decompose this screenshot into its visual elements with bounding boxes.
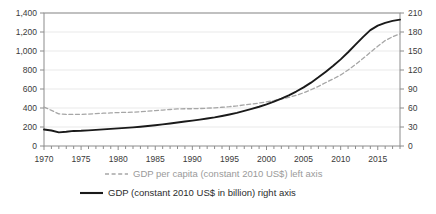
chart-legend: GDP per capita (constant 2010 US$) left … <box>80 168 323 198</box>
x-axis-tick-label: 1975 <box>72 154 91 164</box>
left-axis-tick-label: 0 <box>32 141 37 151</box>
x-axis: 1970197519801985199019952000200520102015 <box>35 146 400 164</box>
x-axis-tick-label: 2005 <box>294 154 313 164</box>
x-axis-tick-label: 2010 <box>331 154 350 164</box>
gdp-chart: 1970197519801985199019952000200520102015… <box>0 0 436 214</box>
left-axis-tick-label: 200 <box>23 122 37 132</box>
left-axis-tick-label: 1,000 <box>16 46 38 56</box>
left-y-axis: 02004006008001,0001,2001,400 <box>16 8 44 151</box>
right-axis-tick-label: 120 <box>408 65 422 75</box>
left-axis-tick-label: 400 <box>23 103 37 113</box>
series-line-gdp <box>44 20 400 133</box>
series-lines <box>44 20 400 133</box>
x-axis-tick-label: 1990 <box>183 154 202 164</box>
x-axis-tick-label: 2000 <box>257 154 276 164</box>
right-axis-tick-label: 210 <box>408 8 422 18</box>
chart-canvas: 1970197519801985199019952000200520102015… <box>0 0 436 214</box>
x-axis-tick-label: 1995 <box>220 154 239 164</box>
x-axis-tick-label: 1980 <box>109 154 128 164</box>
legend-label-gdp: GDP (constant 2010 US$ in billion) right… <box>108 187 296 198</box>
right-y-axis: 0306090120150180210 <box>400 8 422 151</box>
series-line-gdp-per-capita <box>44 34 400 115</box>
right-axis-tick-label: 150 <box>408 46 422 56</box>
x-axis-tick-label: 2015 <box>368 154 387 164</box>
plot-frame <box>44 13 400 146</box>
right-axis-tick-label: 0 <box>408 141 413 151</box>
x-axis-tick-label: 1970 <box>35 154 54 164</box>
right-axis-tick-label: 90 <box>408 84 418 94</box>
right-axis-tick-label: 60 <box>408 103 418 113</box>
grid-lines <box>44 13 400 127</box>
left-axis-tick-label: 1,400 <box>16 8 38 18</box>
left-axis-tick-label: 600 <box>23 84 37 94</box>
right-axis-tick-label: 180 <box>408 27 422 37</box>
legend-label-gdp-per-capita: GDP per capita (constant 2010 US$) left … <box>133 168 323 179</box>
left-axis-tick-label: 1,200 <box>16 27 38 37</box>
x-axis-tick-label: 1985 <box>146 154 165 164</box>
left-axis-tick-label: 800 <box>23 65 37 75</box>
right-axis-tick-label: 30 <box>408 122 418 132</box>
plot-border <box>44 13 400 146</box>
